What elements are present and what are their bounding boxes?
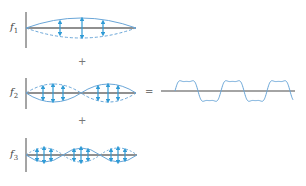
harmonic-f3	[26, 138, 137, 172]
harmonic-f1	[26, 12, 136, 48]
standing-wave-solid	[26, 18, 136, 28]
resultant-waveform	[161, 81, 295, 102]
harmonic-f2	[26, 78, 136, 109]
superposition-diagram	[0, 0, 306, 186]
standing-wave-dashed	[26, 28, 136, 38]
